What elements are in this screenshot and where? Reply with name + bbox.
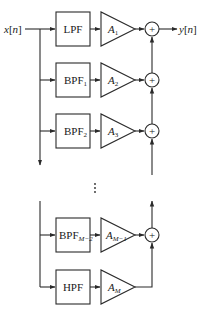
- ellipsis-dots: [94, 183, 96, 193]
- summer-symbol: +: [149, 229, 155, 241]
- row-4: BPFM−2 AM−1 +: [56, 218, 159, 252]
- summer-symbol: +: [149, 125, 155, 137]
- row-3: BPF2 A3 +: [56, 114, 159, 148]
- filter-label: HPF: [63, 281, 83, 293]
- input-label: x[n]: [3, 23, 22, 35]
- row-2: BPF1 A2 +: [56, 63, 159, 97]
- summer-symbol: +: [149, 23, 155, 35]
- row-1: LPF A1 +: [56, 12, 159, 46]
- hpf-to-summer-line: [135, 243, 152, 287]
- summer-symbol: +: [149, 74, 155, 86]
- filter-label: LPF: [64, 23, 83, 35]
- filter-bank-diagram: x[n] LPF A1 + BPF1 A2 + BPF2 A3: [0, 0, 200, 318]
- output-label: y[n]: [178, 23, 197, 35]
